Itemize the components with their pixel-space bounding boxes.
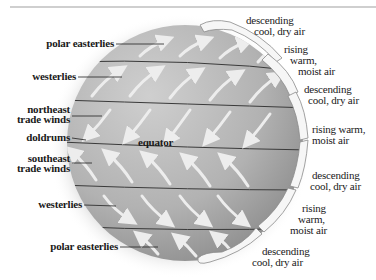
label-northeast-trade-winds-line2: trade winds [17,114,70,125]
label-rising-1-line3: moist air [298,66,335,77]
label-equator: equator [138,137,173,148]
label-descending-3-line2: cool, dry air [310,181,361,192]
label-polar-easterlies-north: polar easterlies [46,38,114,49]
label-westerlies-north: westerlies [32,71,76,82]
label-rising-2-line2: moist air [312,135,349,146]
label-descending-1-line2: cool, dry air [254,26,305,37]
label-descending-4-line2: cool, dry air [252,257,303,268]
label-polar-easterlies-south: polar easterlies [50,241,118,252]
label-descending-2-line2: cool, dry air [308,95,359,106]
label-doldrums: doldrums [26,132,70,143]
label-westerlies-south: westerlies [38,199,82,210]
label-southeast-trade-winds-line2: trade winds [17,163,70,174]
label-rising-3-line3: moist air [290,225,327,236]
